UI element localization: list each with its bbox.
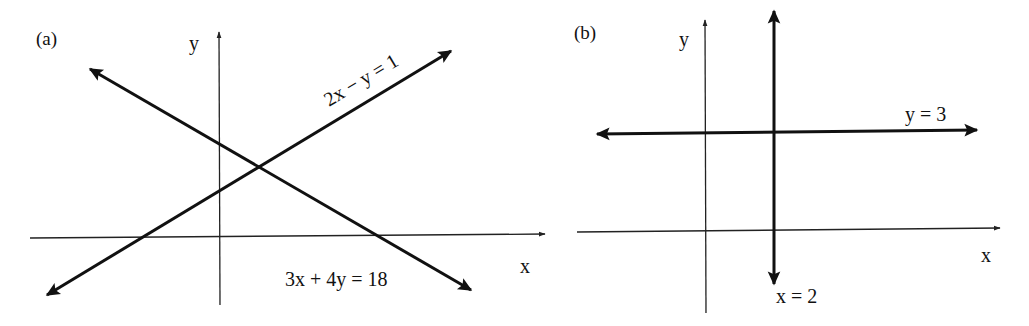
linear-equations-figure: (a) x y 2x − y = 1 3x + 4y = 18 (b) x y … <box>0 0 1029 326</box>
panel-b: (b) x y y = 3 x = 2 <box>574 11 1000 313</box>
line-3x-plus-4y-eq-18 <box>90 69 471 290</box>
label-y-eq-3: y = 3 <box>905 103 946 126</box>
panel-a-y-axis-label: y <box>189 32 199 55</box>
label-2x-minus-y-eq-1: 2x − y = 1 <box>320 49 403 111</box>
panel-b-y-axis-label: y <box>679 28 689 51</box>
label-3x-plus-4y-eq-18: 3x + 4y = 18 <box>285 268 388 291</box>
panel-a-x-axis-label: x <box>520 255 530 277</box>
line-2x-minus-y-eq-1 <box>47 51 451 295</box>
panel-a-x-axis <box>30 234 545 238</box>
panel-b-label: (b) <box>574 22 596 44</box>
panel-a-y-axis <box>219 32 220 305</box>
panel-b-y-axis <box>705 20 706 313</box>
panel-a: (a) x y 2x − y = 1 3x + 4y = 18 <box>30 28 545 305</box>
line-y-eq-3 <box>597 130 977 134</box>
panel-b-x-axis <box>577 228 1000 232</box>
panel-a-label: (a) <box>36 28 57 50</box>
panel-b-x-axis-label: x <box>981 244 991 266</box>
label-x-eq-2: x = 2 <box>776 285 817 307</box>
